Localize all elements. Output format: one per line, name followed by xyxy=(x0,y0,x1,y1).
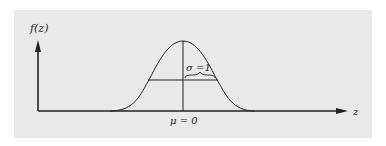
mean-label: μ = 0 xyxy=(170,115,198,126)
x-axis-arrow-icon xyxy=(336,108,348,114)
x-axis-label: z xyxy=(352,106,359,117)
normal-curve-diagram: f(z) z μ = 0 σ =1 xyxy=(0,0,386,146)
sigma-label: σ =1 xyxy=(186,62,211,73)
y-axis-arrow-icon xyxy=(35,40,41,52)
y-axis-label: f(z) xyxy=(29,22,48,35)
